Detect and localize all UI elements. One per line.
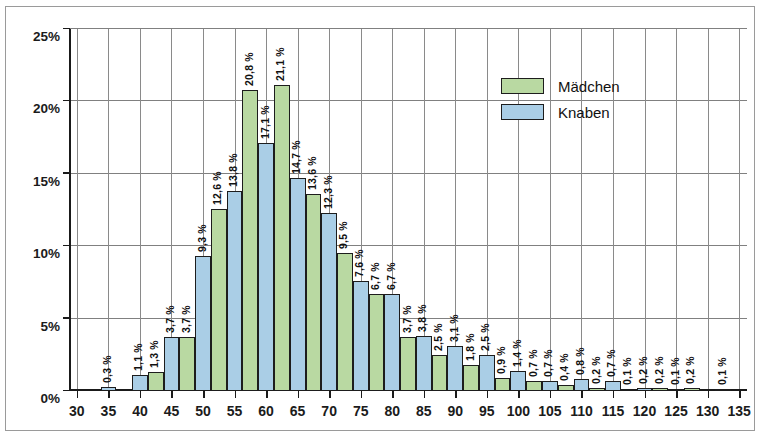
bar-knaben[interactable] [384,294,400,391]
x-axis-tick-label: 115 [602,403,625,419]
bar-knaben[interactable] [715,389,731,391]
x-axis-tick-mark [487,391,489,398]
bar-knaben[interactable] [101,387,117,391]
bar-value-label: 0,1 % [716,357,728,385]
y-axis-line [69,29,71,391]
bar-value-label: 2,5 % [479,323,491,351]
x-axis-tick-label: 130 [696,403,719,419]
bar-maedchen[interactable] [495,378,511,391]
x-axis-tick-mark [203,391,205,398]
x-axis-tick-label: 55 [227,403,243,419]
bar-value-label: 17,1 % [259,106,271,140]
gridline-vertical [708,29,709,391]
bar-knaben[interactable] [542,381,558,391]
bar-knaben[interactable] [258,143,274,391]
bar-value-label: 0,1 % [621,357,633,385]
bar-maedchen[interactable] [684,388,700,391]
bar-maedchen[interactable] [589,388,605,391]
bar-knaben[interactable] [353,281,369,391]
bar-value-label: 0,4 % [558,353,570,381]
bar-value-label: 6,7 % [369,262,381,290]
bar-maedchen[interactable] [432,355,448,391]
bar-value-label: 1,4 % [511,339,523,367]
bar-value-label: 0,7 % [527,349,539,377]
bar-maedchen[interactable] [337,253,353,391]
x-axis-tick-mark [455,391,457,398]
bar-knaben[interactable] [479,355,495,391]
bar-value-label: 0,2 % [590,356,602,384]
bar-knaben[interactable] [416,336,432,391]
bar-value-label: 13,8 % [227,153,239,187]
bar-knaben[interactable] [447,346,463,391]
x-axis-tick-mark [171,391,173,398]
x-axis-tick-label: 50 [195,403,211,419]
x-axis-tick-label: 105 [538,403,561,419]
x-axis-tick-label: 125 [664,403,687,419]
legend-swatch-maedchen [501,78,544,94]
bar-knaben[interactable] [195,256,211,391]
x-axis-tick-label: 120 [633,403,656,419]
bar-value-label: 0,3 % [101,355,113,383]
gridline-vertical [676,29,677,391]
bar-maedchen[interactable] [274,85,290,391]
y-axis-tick-mark [63,100,70,102]
bar-knaben[interactable] [574,379,590,391]
gridline-vertical [108,29,109,391]
bar-knaben[interactable] [290,178,306,391]
bar-value-label: 1,1 % [132,343,144,371]
bar-knaben[interactable] [510,371,526,391]
bar-maedchen[interactable] [306,194,322,391]
bar-value-label: 12,6 % [211,171,223,205]
x-axis-tick-label: 95 [479,403,495,419]
bar-value-label: 2,5 % [432,323,444,351]
x-axis-tick-label: 45 [164,403,180,419]
bar-maedchen[interactable] [242,90,258,391]
x-axis-tick-mark [676,391,678,398]
chart-frame: 0%5%10%15%20%25% 30354045505560657075808… [5,6,755,431]
bar-maedchen[interactable] [558,385,574,391]
bar-knaben[interactable] [605,381,621,391]
legend-label-knaben: Knaben [558,104,610,121]
bar-knaben[interactable] [321,213,337,391]
x-axis-tick-mark [298,391,300,398]
gridline-vertical [77,29,78,391]
bar-maedchen[interactable] [463,365,479,391]
x-axis-tick-mark [613,391,615,398]
x-axis-tick-mark [329,391,331,398]
x-axis-tick-mark [77,391,79,398]
x-axis-tick-mark [645,391,647,398]
y-axis-tick-mark [63,172,70,174]
bar-maedchen[interactable] [179,337,195,391]
x-axis-tick-label: 40 [132,403,148,419]
bar-maedchen[interactable] [148,372,164,391]
bar-value-label: 0,2 % [637,356,649,384]
bar-knaben[interactable] [668,389,684,391]
bar-value-label: 1,8 % [464,333,476,361]
x-axis-tick-mark [266,391,268,398]
x-axis-tick-mark [424,391,426,398]
x-axis-tick-label: 75 [353,403,369,419]
gridline-vertical [739,29,740,391]
bar-maedchen[interactable] [526,381,542,391]
x-axis-tick-label: 90 [448,403,464,419]
bar-maedchen[interactable] [621,389,637,391]
bar-maedchen[interactable] [400,337,416,391]
plot-area: 0%5%10%15%20%25% 30354045505560657075808… [69,29,747,391]
x-axis-tick-label: 100 [507,403,530,419]
bar-knaben[interactable] [164,337,180,391]
bar-value-label: 3,8 % [416,304,428,332]
bar-knaben[interactable] [227,191,243,391]
x-axis-tick-label: 35 [101,403,117,419]
bar-knaben[interactable] [637,388,653,391]
x-axis-tick-label: 135 [727,403,750,419]
bar-value-label: 6,7 % [385,262,397,290]
x-axis-tick-mark [708,391,710,398]
bar-knaben[interactable] [132,375,148,391]
bar-value-label: 9,3 % [196,224,208,252]
bar-maedchen[interactable] [652,388,668,391]
bar-maedchen[interactable] [369,294,385,391]
x-axis-tick-label: 70 [321,403,337,419]
bar-value-label: 9,5 % [337,222,349,250]
bar-value-label: 7,6 % [353,249,365,277]
bar-maedchen[interactable] [211,209,227,391]
